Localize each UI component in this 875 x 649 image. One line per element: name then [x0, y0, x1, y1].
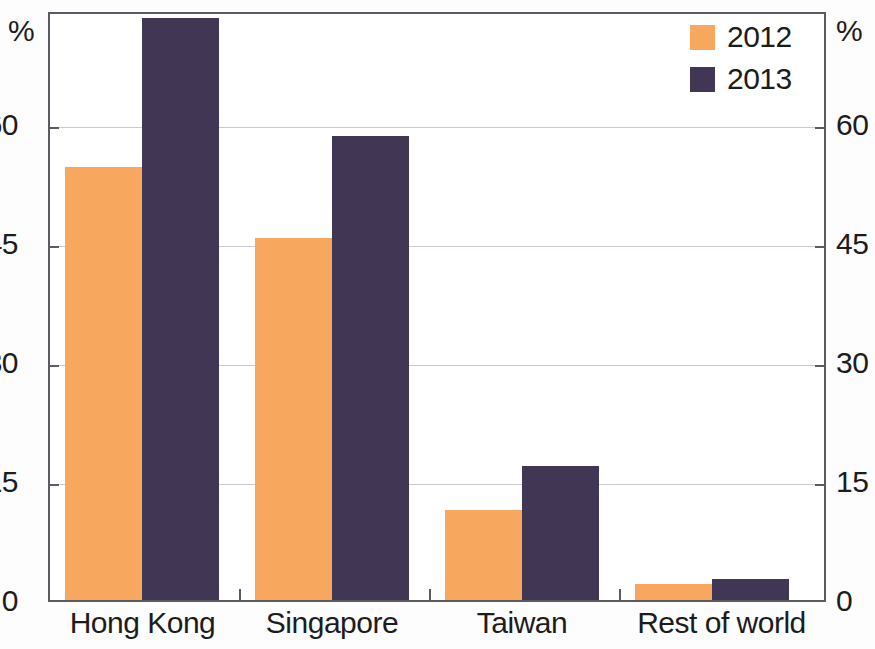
category-separator-2: [429, 589, 431, 600]
legend-swatch-2012-icon: [690, 25, 715, 50]
bar-rest-of-world-2012: [635, 584, 712, 600]
y-axis-tick-right-2: 30: [836, 348, 868, 378]
tickmark-left-45: [50, 246, 59, 248]
y-axis-tick-left-2: 30: [0, 348, 18, 378]
y-axis-unit-left: %: [8, 16, 34, 46]
bar-singapore-2013: [332, 136, 409, 600]
tickmark-left-15: [50, 484, 59, 486]
legend-item-2013: 2013: [690, 64, 792, 94]
y-axis-tick-right-4: 0: [836, 586, 852, 616]
bar-singapore-2012: [255, 238, 332, 600]
bar-hong-kong-2012: [65, 167, 142, 600]
plot-area: [48, 12, 826, 602]
bar-rest-of-world-2013: [712, 579, 789, 600]
y-axis-tick-left-1: 45: [0, 229, 18, 259]
tickmark-right-15: [815, 484, 824, 486]
y-axis-tick-left-4: 0: [2, 586, 18, 616]
legend: 2012 2013: [690, 22, 792, 94]
x-axis-label-hong-kong: Hong Kong: [48, 608, 237, 638]
tickmark-right-30: [815, 365, 824, 367]
legend-label-2012: 2012: [727, 22, 792, 52]
legend-swatch-2013-icon: [690, 67, 715, 92]
bar-taiwan-2012: [445, 510, 522, 600]
y-axis-tick-left-3: 15: [0, 467, 18, 497]
y-axis-tick-right-3: 15: [836, 467, 868, 497]
bar-taiwan-2013: [522, 466, 599, 600]
x-axis-label-taiwan: Taiwan: [427, 608, 617, 638]
tickmark-left-60: [50, 127, 59, 129]
x-axis-label-rest-of-world: Rest of world: [617, 608, 826, 638]
y-axis-tick-right-1: 45: [836, 229, 868, 259]
tickmark-left-30: [50, 365, 59, 367]
y-axis-tick-left-0: 60: [0, 110, 18, 140]
y-axis-unit-right: %: [836, 16, 862, 46]
legend-label-2013: 2013: [727, 64, 792, 94]
legend-item-2012: 2012: [690, 22, 792, 52]
x-axis-label-singapore: Singapore: [237, 608, 427, 638]
category-separator-1: [239, 589, 241, 600]
y-axis-tick-right-0: 60: [836, 110, 868, 140]
tickmark-right-60: [815, 127, 824, 129]
bar-chart: % % 60 45 30: [0, 0, 875, 649]
category-separator-3: [619, 589, 621, 600]
bar-hong-kong-2013: [142, 18, 219, 600]
tickmark-right-45: [815, 246, 824, 248]
